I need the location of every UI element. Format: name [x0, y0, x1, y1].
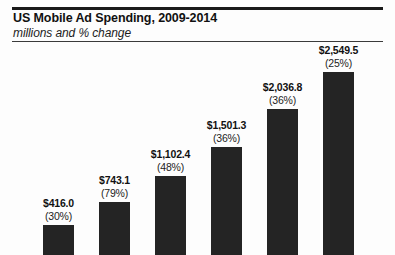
bar-value-label: $2,036.8	[263, 81, 302, 93]
bar-rect[interactable]	[267, 109, 298, 255]
bar-change-label: (36%)	[207, 132, 246, 144]
bar-group[interactable]: $2,549.5(25%)	[323, 44, 354, 255]
bar-label-group: $1,501.3(36%)	[207, 119, 246, 144]
bar-change-label: (36%)	[263, 94, 302, 106]
bar-value-label: $743.1	[99, 174, 130, 186]
bar-change-label: (30%)	[43, 210, 74, 222]
bar-rect[interactable]	[211, 147, 242, 255]
bar-rect[interactable]	[99, 202, 130, 255]
chart-figure: US Mobile Ad Spending, 2009-2014 million…	[0, 0, 395, 255]
bar-label-group: $1,102.4(48%)	[151, 148, 190, 173]
bar-group[interactable]: $2,036.8(36%)	[267, 44, 298, 255]
header-bottom-rule	[12, 41, 383, 42]
bar-label-group: $2,036.8(36%)	[263, 81, 302, 106]
bar-group[interactable]: $416.0(30%)	[43, 44, 74, 255]
bar-rect[interactable]	[43, 225, 74, 255]
bar-value-label: $416.0	[43, 197, 74, 209]
bar-value-label: $1,501.3	[207, 119, 246, 131]
bar-label-group: $743.1(79%)	[99, 174, 130, 199]
bar-change-label: (48%)	[151, 161, 190, 173]
bar-group[interactable]: $743.1(79%)	[99, 44, 130, 255]
plot-area: $416.0(30%)$743.1(79%)$1,102.4(48%)$1,50…	[0, 44, 395, 255]
bar-value-label: $2,549.5	[319, 44, 358, 56]
bar-label-group: $2,549.5(25%)	[319, 44, 358, 69]
bar-change-label: (79%)	[99, 187, 130, 199]
chart-subtitle: millions and % change	[13, 26, 131, 40]
bar-group[interactable]: $1,501.3(36%)	[211, 44, 242, 255]
bar-rect[interactable]	[155, 176, 186, 255]
bar-label-group: $416.0(30%)	[43, 197, 74, 222]
bar-rect[interactable]	[323, 72, 354, 255]
header-top-rule	[12, 7, 383, 10]
bar-value-label: $1,102.4	[151, 148, 190, 160]
chart-title: US Mobile Ad Spending, 2009-2014	[13, 11, 217, 25]
bar-change-label: (25%)	[319, 57, 358, 69]
bar-group[interactable]: $1,102.4(48%)	[155, 44, 186, 255]
